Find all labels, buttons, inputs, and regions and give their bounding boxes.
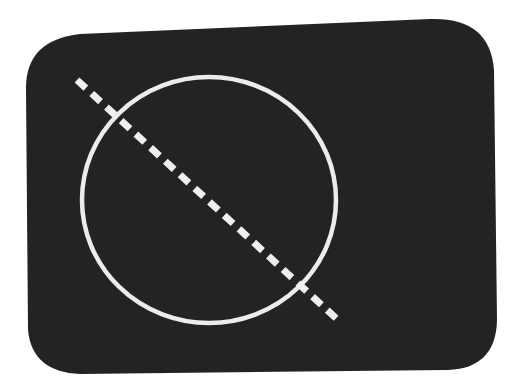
- screen-diagram: [0, 0, 522, 387]
- screen-shape: [26, 19, 497, 374]
- figure-canvas: [0, 0, 522, 387]
